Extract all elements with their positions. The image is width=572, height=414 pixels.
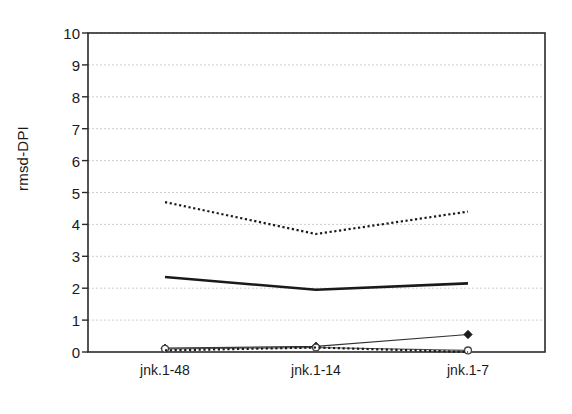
marker-diamond [464,330,472,338]
marker-circle [313,344,320,351]
plot-canvas [0,0,572,414]
marker-circle [465,347,472,354]
series-line-dotted-upper [165,202,468,234]
x-tick-label: jnk.1-7 [447,362,489,378]
x-tick-label: jnk.1-14 [291,362,341,378]
chart-figure: rmsd-DPI 012345678910 jnk.1-48jnk.1-14jn… [0,0,572,414]
x-tick-label: jnk.1-48 [140,362,190,378]
marker-circle [162,345,169,352]
